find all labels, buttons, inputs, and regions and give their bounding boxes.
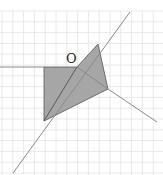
geometry-figure — [0, 0, 163, 175]
line-segment — [108, 89, 157, 122]
point-label-o: O — [66, 52, 77, 65]
